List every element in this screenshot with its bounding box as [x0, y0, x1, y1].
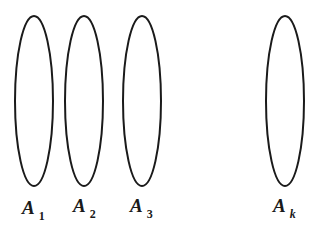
set-ellipse-a3	[123, 16, 161, 186]
set-label-a3: A3	[130, 196, 153, 215]
set-subscript: 1	[39, 209, 45, 223]
set-ellipse-ak	[266, 16, 304, 186]
set-subscript: 2	[90, 207, 96, 221]
set-name: A	[130, 195, 143, 216]
set-label-a2: A2	[73, 196, 96, 215]
set-name: A	[73, 195, 86, 216]
set-ellipse-a2	[65, 16, 103, 186]
set-label-ak: Ak	[273, 196, 296, 215]
set-name: A	[22, 197, 35, 218]
set-subscript: 3	[147, 207, 153, 221]
set-ellipse-a1	[15, 16, 53, 186]
disjoint-sets-diagram	[0, 0, 315, 231]
set-label-a1: A1	[22, 198, 45, 217]
set-name: A	[273, 195, 286, 216]
set-subscript: k	[290, 207, 296, 221]
